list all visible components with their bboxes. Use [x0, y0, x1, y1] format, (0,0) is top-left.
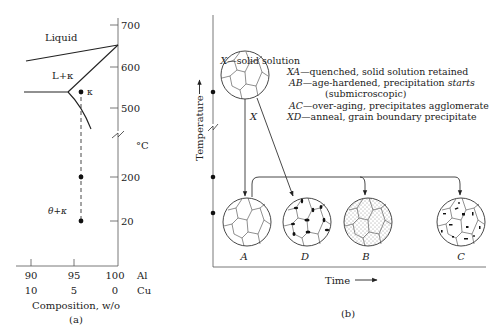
tick-700: 700: [121, 20, 140, 31]
time-axis-label: Time: [325, 275, 350, 286]
phase-diagram-panel: 700 600 500 200 20 °C 90 95 100 Al 10 5 …: [16, 18, 152, 325]
legend-item-ac: AC—over-aging, precipitates agglomerate: [288, 100, 489, 111]
al-label: Al: [136, 270, 147, 281]
cu-0: 0: [112, 285, 118, 296]
temp-level-aging: [211, 175, 216, 180]
axis-break-icon: [112, 131, 124, 138]
aging-bracket: [252, 177, 460, 197]
theta-kappa-region-label: θ+κ: [48, 206, 67, 216]
panel-a-caption: (a): [69, 314, 83, 325]
figure-canvas: 700 600 500 200 20 °C 90 95 100 Al 10 5 …: [0, 0, 498, 335]
label-a: A: [239, 251, 247, 262]
legend-item-xd: XD—anneal, grain boundary precipitate: [286, 111, 477, 122]
kappa-label: κ: [87, 87, 93, 97]
al-90: 90: [25, 270, 38, 281]
legend-item-xa: XA—quenched, solid solution retained: [286, 66, 468, 77]
legend-item-x: X—solid solution: [220, 55, 300, 66]
legend-item-ab: AB—age-hardened, precipitation starts: [288, 77, 475, 88]
microstructure-c: C: [437, 198, 485, 262]
tick-500: 500: [121, 103, 140, 114]
cu-10: 10: [25, 285, 38, 296]
age-harden-arrow: [360, 177, 365, 195]
microstructure-a: A: [223, 198, 271, 262]
liquid-region-label: Liquid: [45, 32, 78, 43]
temperature-unit: °C: [136, 140, 149, 151]
axis-break-icon-b: [208, 124, 218, 131]
cu-label: Cu: [137, 285, 152, 296]
tick-600: 600: [121, 62, 140, 73]
l-kappa-region-label: L+κ: [52, 70, 74, 81]
label-b: B: [361, 251, 369, 262]
tick-200: 200: [121, 172, 140, 183]
temperature-axis-label: Temperature: [194, 95, 205, 161]
label-d: D: [300, 251, 309, 262]
temp-level-room: [211, 211, 216, 216]
composition-title: Composition, w/o: [32, 300, 120, 311]
kappa-point: [79, 90, 84, 95]
aging-point-200: [79, 175, 84, 180]
al-95: 95: [68, 270, 81, 281]
cu-5: 5: [71, 285, 77, 296]
room-temp-point: [79, 219, 84, 224]
legend-item-ab-note: (submicroscopic): [325, 88, 406, 99]
temp-level-solution: [211, 90, 216, 95]
panel-b-caption: (b): [341, 308, 355, 319]
microstructure-d: D: [283, 198, 331, 262]
transition-x-label: X: [249, 111, 258, 122]
tick-20: 20: [121, 216, 134, 227]
al-100: 100: [105, 270, 124, 281]
solvus-curve: [68, 92, 91, 129]
heat-treatment-panel: Temperature Time (b) X A: [194, 15, 489, 319]
label-c: C: [457, 251, 465, 262]
microstructure-b: B: [344, 198, 392, 262]
